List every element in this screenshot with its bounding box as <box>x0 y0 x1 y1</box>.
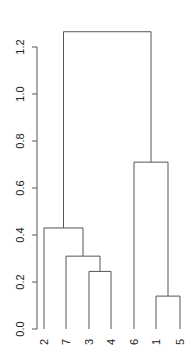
leaf-label: 6 <box>128 339 140 345</box>
y-tick-label: 1.0 <box>14 86 26 101</box>
leaf-label: 5 <box>174 339 186 345</box>
dendrogram-tree <box>44 32 180 329</box>
leaf-label: 1 <box>150 339 162 345</box>
leaf-label: 7 <box>60 339 72 345</box>
y-tick-label: 0.4 <box>14 227 26 242</box>
leaf-label: 3 <box>83 339 95 345</box>
y-tick-label: 0.8 <box>14 133 26 148</box>
leaf-labels: 2734615 <box>38 339 186 345</box>
y-tick-label: 1.2 <box>14 39 26 54</box>
leaf-label: 4 <box>105 339 117 345</box>
leaf-label: 2 <box>38 339 50 345</box>
y-tick-label: 0.6 <box>14 180 26 195</box>
dendrogram-chart: 0.00.20.40.60.81.01.2 2734615 <box>0 0 193 362</box>
y-tick-label: 0.2 <box>14 274 26 289</box>
y-tick-label: 0.0 <box>14 321 26 336</box>
y-axis: 0.00.20.40.60.81.01.2 <box>14 39 37 336</box>
